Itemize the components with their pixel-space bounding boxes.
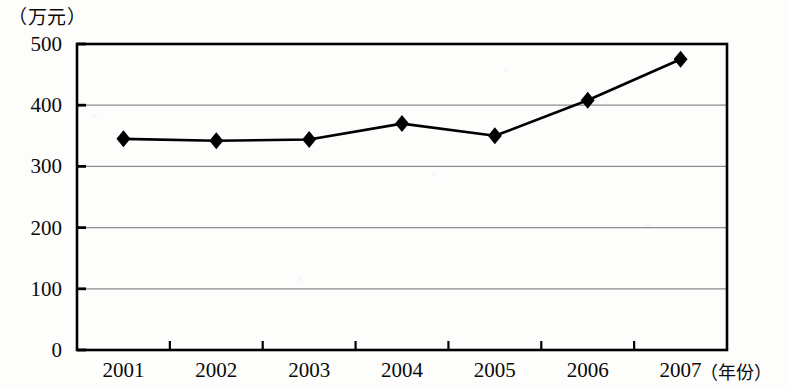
y-tick-label: 0 [52, 340, 63, 361]
plot-area [0, 0, 790, 388]
y-tick-label: 500 [31, 34, 63, 55]
data-point-marker [674, 51, 688, 68]
x-tick-label: 2003 [288, 360, 330, 381]
y-axis-ticks [77, 44, 86, 350]
x-tick-label: 2004 [381, 360, 423, 381]
x-tick-label: 2001 [102, 360, 144, 381]
line-chart: （万元） （年份） 0100200300400500 2001200220032… [0, 0, 790, 388]
data-point-marker [395, 115, 409, 132]
x-tick-label: 2002 [195, 360, 237, 381]
y-tick-label: 400 [31, 95, 63, 116]
x-tick-label: 2005 [474, 360, 516, 381]
y-tick-label: 100 [31, 278, 63, 299]
y-tick-label: 300 [31, 156, 63, 177]
series-markers [116, 51, 687, 149]
data-point-marker [581, 92, 595, 109]
y-tick-label: 200 [31, 217, 63, 238]
x-tick-label: 2007 [660, 360, 702, 381]
x-tick-label: 2006 [567, 360, 609, 381]
x-axis-ticks [170, 341, 634, 350]
data-point-marker [116, 130, 130, 147]
data-point-marker [488, 127, 502, 144]
plot-border [77, 44, 727, 350]
gridlines [77, 105, 727, 289]
data-point-marker [302, 131, 316, 148]
data-point-marker [209, 132, 223, 149]
plot-frame [77, 44, 727, 350]
